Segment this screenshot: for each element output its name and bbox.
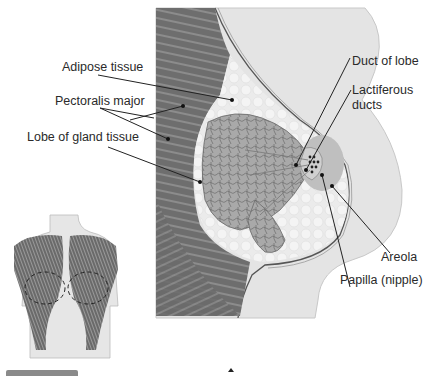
label-lobe-of-gland-tissue: Lobe of gland tissue — [27, 130, 139, 145]
label-ducts: ducts — [352, 98, 382, 113]
label-pectoralis-major: Pectoralis major — [55, 94, 145, 109]
label-adipose-tissue: Adipose tissue — [62, 60, 143, 75]
label-lactiferous: Lactiferous — [352, 83, 413, 98]
label-papilla: Papilla (nipple) — [340, 273, 423, 288]
caption-bar — [6, 370, 78, 376]
torso-inset — [14, 215, 118, 358]
label-areola: Areola — [381, 250, 417, 265]
label-duct-of-lobe: Duct of lobe — [352, 54, 419, 69]
